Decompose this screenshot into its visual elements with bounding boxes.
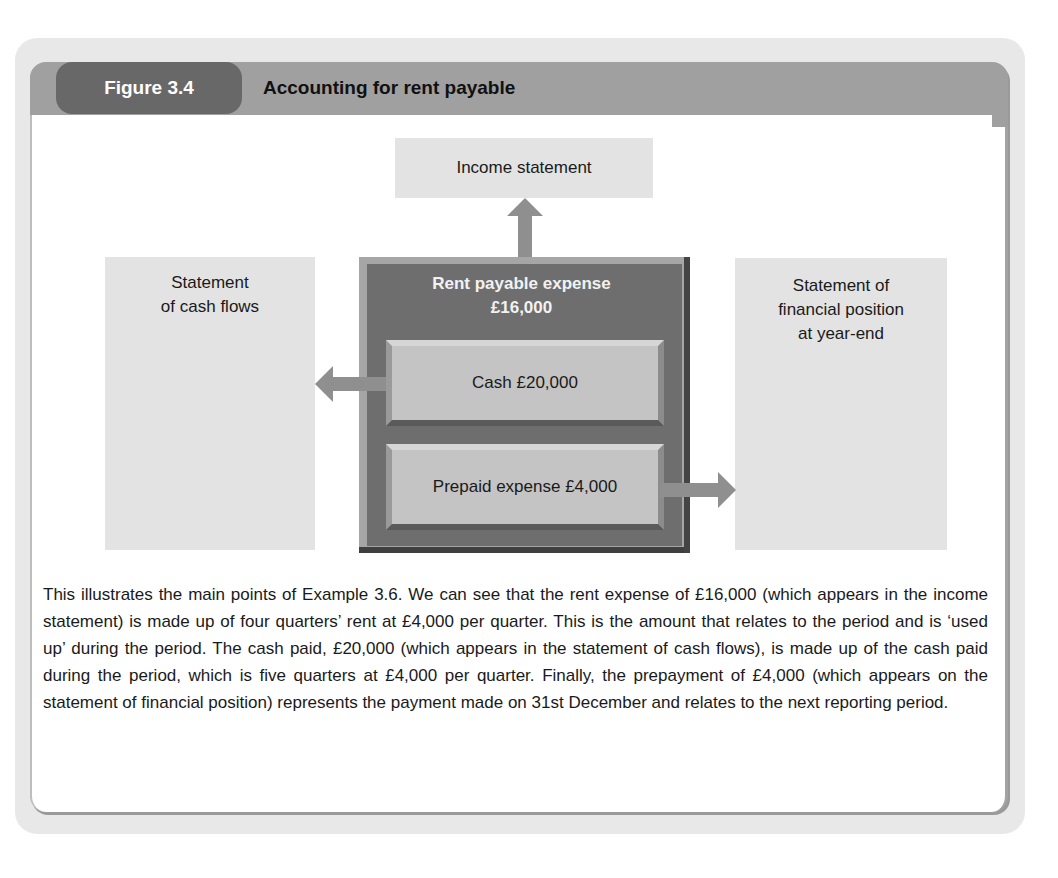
figure-caption: This illustrates the main points of Exam… (43, 581, 988, 716)
arrow-right-icon (660, 472, 736, 508)
financial-position-label-line-1: Statement of (735, 274, 947, 298)
income-statement-box: Income statement (395, 138, 653, 198)
rent-expense-label: Rent payable expense (359, 272, 684, 296)
figure-label: Figure 3.4 (56, 62, 242, 114)
prepaid-expense-box: Prepaid expense £4,000 (386, 444, 664, 530)
financial-position-label-line-2: financial position (735, 298, 947, 322)
cash-flows-label-line-1: Statement (105, 271, 315, 295)
cash-label: Cash £20,000 (472, 373, 578, 393)
arrow-left-icon (315, 366, 389, 402)
arrow-up-icon (507, 198, 543, 260)
figure-title: Accounting for rent payable (263, 62, 515, 114)
financial-position-statement-box: Statement of financial position at year-… (735, 258, 947, 550)
cash-box: Cash £20,000 (386, 340, 664, 426)
cash-flows-label-line-2: of cash flows (105, 295, 315, 319)
rent-expense-title: Rent payable expense £16,000 (359, 272, 684, 320)
income-statement-label: Income statement (456, 156, 591, 180)
financial-position-label-line-3: at year-end (735, 322, 947, 346)
prepaid-expense-label: Prepaid expense £4,000 (433, 477, 617, 497)
cash-flows-statement-box: Statement of cash flows (105, 257, 315, 550)
rent-expense-amount: £16,000 (359, 296, 684, 320)
